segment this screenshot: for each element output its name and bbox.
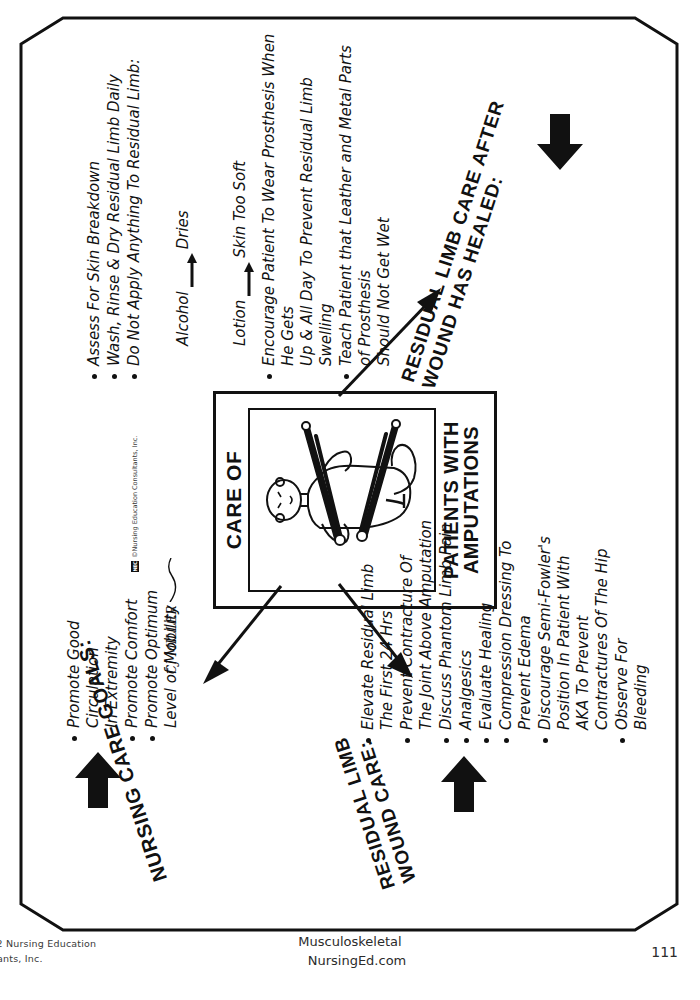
footer-brand: Musculoskeletal NursingEd.com: [0, 932, 700, 970]
connector-card-to-after-healed: [335, 280, 445, 400]
list-item: Analgesics: [457, 504, 476, 744]
list-item: Promote Good Circulation In Extremity: [65, 552, 122, 742]
right-arrow-icon: [164, 253, 202, 287]
block-arrow-after-healed: [537, 114, 583, 170]
list-item: Discourage Semi-Fowler's Position In Pat…: [536, 504, 612, 744]
list-item: Promote Comfort: [123, 552, 142, 742]
list-item: Do Not Apply Anything To Residual Limb:: [125, 28, 144, 380]
page-footer: 012 Nursing Education ultants, Inc. Musc…: [0, 922, 700, 992]
page-number: 111: [651, 944, 678, 960]
nec-logo: NEC: [131, 561, 139, 572]
artist-signature: CJ MILLER: [165, 558, 179, 674]
list-item: Evaluate Healing: [477, 504, 496, 744]
publisher-credit: NEC©Nursing Education Consultants, Inc.: [131, 436, 139, 572]
footer-website[interactable]: NursingEd.com: [0, 951, 700, 970]
sub-reaction-row: Alcohol Dries Lotion Skin Too Soft: [145, 28, 259, 380]
connector-goals-to-card: [201, 580, 287, 690]
rotated-poster-canvas: CARE OF: [5, 0, 695, 940]
list-item: Observe For Bleeding: [613, 504, 651, 744]
card-title: CARE OF: [222, 451, 246, 550]
artist-signature-text: CJ MILLER: [165, 605, 179, 674]
footer-topic: Musculoskeletal: [0, 932, 700, 951]
list-item: Encourage Patient To Wear Prosthesis Whe…: [260, 28, 336, 380]
reaction-effect-skin-too-soft: Skin Too Soft: [231, 161, 249, 258]
block-arrow-wound-care: [441, 756, 487, 812]
list-item: Compression Dressing To Prevent Edema: [497, 504, 535, 744]
block-arrow-goals: [75, 752, 121, 808]
publisher-credit-text: ©Nursing Education Consultants, Inc.: [131, 436, 139, 558]
list-item: Discuss Phantom Limb Pain: [437, 504, 456, 744]
right-arrow-icon: [221, 262, 259, 296]
reaction-cause-lotion: Lotion: [231, 300, 249, 346]
reaction-effect-dries: Dries: [174, 210, 192, 249]
list-item: Assess For Skin Breakdown: [85, 28, 104, 380]
connector-card-to-wound-care: [335, 578, 421, 688]
poster-page: CARE OF: [0, 0, 700, 1000]
reaction-cause-alcohol: Alcohol: [174, 291, 192, 346]
list-item: Wash, Rinse & Dry Residual Limb Daily: [105, 28, 124, 380]
